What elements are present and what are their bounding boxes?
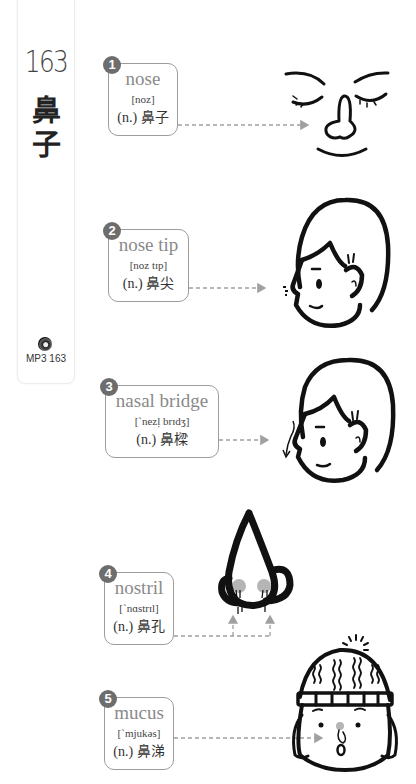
vocab-translation: (n.) 鼻涕 [105, 743, 173, 761]
vocab-translation: (n.) 鼻子 [109, 109, 177, 127]
vocab-translation: (n.) 鼻尖 [109, 275, 188, 293]
vocab-word: nose tip [109, 235, 188, 255]
vocab-card-mucus[interactable]: mucus [ˋmjukəs] (n.) 鼻涕 [104, 697, 174, 770]
nose-closeup-nostrils-illustration [222, 513, 290, 614]
child-beanie-runny-nose-illustration [294, 635, 397, 770]
number-badge-1: 1 [103, 56, 121, 74]
vocab-card-nasal-bridge[interactable]: nasal bridge [ˋnezḷ brɪdʒ] (n.) 鼻樑 [105, 385, 219, 458]
vocab-phonetic: [ˋmjukəs] [105, 726, 173, 740]
sparkle-icon [343, 635, 368, 650]
vocab-phonetic: [ˋnɑstrɪl] [105, 601, 173, 615]
face-closed-eyes-illustration [286, 73, 388, 156]
vocab-word: mucus [105, 703, 173, 723]
vocab-word: nostril [105, 578, 173, 598]
vocab-card-nostril[interactable]: nostril [ˋnɑstrɪl] (n.) 鼻孔 [104, 572, 174, 645]
vocab-word: nose [109, 69, 177, 89]
vocab-card-nose-tip[interactable]: nose tip [noz tɪp] (n.) 鼻尖 [108, 229, 189, 302]
vocab-card-nose[interactable]: nose [noz] (n.) 鼻子 [108, 63, 178, 136]
number-badge-5: 5 [99, 690, 117, 708]
vocab-translation: (n.) 鼻樑 [106, 431, 218, 449]
vocab-phonetic: [noz tɪp] [109, 258, 188, 272]
boy-profile-nose-tip-illustration [293, 200, 389, 326]
number-badge-3: 3 [100, 378, 118, 396]
boy-profile-nasal-bridge-illustration [295, 360, 394, 481]
vocab-phonetic: [ˋnezḷ brɪdʒ] [106, 414, 218, 428]
vocab-translation: (n.) 鼻孔 [105, 618, 173, 636]
vocab-phonetic: [noz] [109, 92, 177, 106]
number-badge-2: 2 [103, 222, 121, 240]
number-badge-4: 4 [99, 565, 117, 583]
vocab-word: nasal bridge [106, 391, 218, 411]
nose-tip-sparkle-icon [283, 286, 288, 296]
down-arrow-icon [283, 421, 294, 457]
